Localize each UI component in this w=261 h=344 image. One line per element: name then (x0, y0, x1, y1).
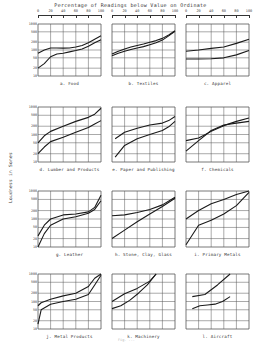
top-axis-tick-mark (186, 15, 187, 18)
top-axis-tick-label: 60 (74, 9, 78, 13)
top-axis-tick-mark (211, 15, 212, 18)
series-line-upper (186, 39, 249, 51)
y-tick-label: 10 (23, 245, 37, 249)
y-tick-label: 10 (23, 74, 37, 78)
top-axis-tick-mark (175, 15, 176, 18)
chart-panel-e (112, 107, 175, 162)
top-axis-tick-mark (112, 15, 113, 18)
y-tick-label: 50 (23, 141, 37, 145)
y-tick-label: 1000 (23, 189, 37, 193)
series-line-upper (115, 117, 175, 139)
top-axis: 020406080100 (186, 9, 249, 19)
y-tick-label: 50 (23, 56, 37, 60)
top-axis-tick-mark (38, 15, 39, 18)
grid (112, 191, 175, 247)
y-tick-label: 500 (23, 113, 37, 117)
chart-panel-b (112, 24, 175, 76)
series-line-lower (38, 40, 101, 69)
top-axis-tick-label: 100 (98, 9, 105, 13)
y-tick-label: 20 (23, 66, 37, 70)
plot-area (38, 274, 101, 329)
y-tick-label: 200 (23, 209, 37, 213)
top-axis-tick-mark (162, 15, 163, 18)
series-line-lower (38, 201, 101, 247)
series-line-lower (112, 198, 175, 238)
y-tick-label: 50 (23, 225, 37, 229)
series-line-upper (112, 197, 175, 216)
y-tick-label: 200 (23, 124, 37, 128)
chart-panel-c (186, 24, 249, 76)
chart-panel-g: 1000500200100502010 (38, 191, 101, 247)
top-axis-tick-label: 100 (172, 9, 179, 13)
top-axis-tick-label: 60 (148, 9, 152, 13)
panel-label-g: g. Leather (38, 252, 101, 257)
plot-area (186, 107, 249, 162)
y-axis-label: Loudness in Sones (8, 138, 13, 218)
top-axis-tick-label: 40 (135, 9, 139, 13)
y-tick-label: 1000 (23, 272, 37, 276)
plot-area (38, 24, 101, 76)
top-axis-tick-label: 40 (61, 9, 65, 13)
figure-caption: Fig. ... (118, 338, 135, 342)
y-tick-label: 20 (23, 319, 37, 323)
top-axis-tick-mark (224, 15, 225, 18)
panel-label-j: j. Metal Products (38, 334, 101, 339)
top-axis-tick-label: 0 (37, 9, 39, 13)
top-axis-tick-mark (199, 15, 200, 18)
top-axis-tick-mark (88, 15, 89, 18)
plot-area (186, 274, 249, 329)
grid (38, 24, 101, 76)
top-axis: 020406080100 (38, 9, 101, 19)
panel-label-f: f. Chemicals (186, 167, 249, 172)
y-tick-label: 500 (23, 197, 37, 201)
y-tick-label: 20 (23, 152, 37, 156)
chart-panel-f (186, 107, 249, 162)
grid (186, 191, 249, 247)
y-tick-label: 20 (23, 237, 37, 241)
top-axis-tick-mark (236, 15, 237, 18)
y-tick-label: 100 (23, 133, 37, 137)
panel-label-l: l. Aircraft (186, 334, 249, 339)
plot-area (112, 191, 175, 247)
top-axis-tick-label: 20 (48, 9, 52, 13)
plot-area (112, 274, 175, 329)
top-axis-tick-label: 20 (122, 9, 126, 13)
top-axis-tick-label: 80 (234, 9, 238, 13)
series-line-lower (38, 121, 101, 154)
top-axis-tick-mark (137, 15, 138, 18)
top-axis-tick-label: 60 (222, 9, 226, 13)
top-axis: 020406080100 (112, 9, 175, 19)
chart-panel-j: 1000500200100502010 (38, 274, 101, 329)
top-axis-tick-mark (249, 15, 250, 18)
y-tick-label: 500 (23, 30, 37, 34)
panel-label-e: e. Paper and Publishing (112, 167, 175, 172)
top-axis-line (38, 15, 101, 16)
panel-label-a: a. Food (38, 81, 101, 86)
y-tick-label: 10 (23, 327, 37, 331)
chart-panel-l (186, 274, 249, 329)
top-axis-tick-mark (76, 15, 77, 18)
plot-area (112, 24, 175, 76)
chart-panel-d: 1000500200100502010 (38, 107, 101, 162)
top-axis-tick-mark (51, 15, 52, 18)
top-axis-tick-mark (101, 15, 102, 18)
plot-area (38, 191, 101, 247)
grid (186, 107, 249, 162)
plot-area (38, 107, 101, 162)
series-line-lower (112, 274, 156, 309)
y-tick-label: 100 (23, 300, 37, 304)
series-line-lower (186, 121, 249, 151)
top-axis-tick-label: 0 (111, 9, 113, 13)
top-axis-line (112, 15, 175, 16)
series-line-upper (186, 191, 249, 219)
panel-label-h: h. Stone, Clay, Glass (112, 252, 175, 257)
panel-label-c: c. Apparel (186, 81, 249, 86)
chart-panel-i (186, 191, 249, 247)
y-tick-label: 100 (23, 217, 37, 221)
top-axis-tick-mark (63, 15, 64, 18)
grid (112, 274, 175, 329)
plot-area (112, 107, 175, 162)
y-tick-label: 200 (23, 40, 37, 44)
series-line-upper (186, 118, 249, 141)
y-tick-label: 200 (23, 291, 37, 295)
